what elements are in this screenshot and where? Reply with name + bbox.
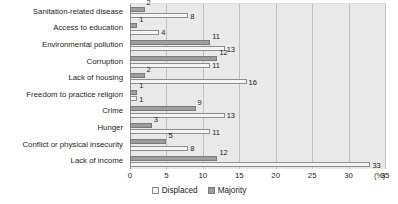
bar-displaced: [130, 146, 188, 151]
bar-majority: [130, 139, 166, 144]
category-label: Environmental pollution: [0, 40, 123, 49]
plot-area: 28141113121121611913311581233: [130, 3, 386, 169]
horizontal-bar-chart: Sanitation-related diseaseAccess to educ…: [0, 0, 398, 204]
bar-value-label: 1: [139, 16, 143, 24]
legend-label: Displaced: [162, 186, 198, 195]
bar-group: 11: [130, 87, 385, 104]
bar-majority: [130, 156, 217, 161]
bar-value-label: 11: [212, 33, 220, 41]
bar-value-label: 12: [219, 149, 227, 157]
bar-majority: [130, 90, 137, 95]
category-label: Crime: [0, 106, 123, 115]
category-axis-labels: Sanitation-related diseaseAccess to educ…: [0, 3, 127, 169]
bar-value-label: 8: [190, 145, 194, 153]
bar-value-label: 9: [198, 99, 202, 107]
x-tick-label: 30: [344, 171, 353, 180]
bar-group: 1233: [130, 153, 385, 170]
bar-value-label: 1: [139, 82, 143, 90]
bar-value-label: 1: [139, 96, 143, 104]
bar-group: 14: [130, 21, 385, 38]
x-tick-label: 15: [235, 171, 244, 180]
bar-value-label: 3: [154, 116, 158, 124]
bar-value-label: 13: [227, 112, 235, 120]
bar-value-label: 5: [168, 132, 172, 140]
x-tick-label: 25: [308, 171, 317, 180]
bar-displaced: [130, 113, 225, 118]
category-label: Lack of income: [0, 156, 123, 165]
bar-majority: [130, 106, 196, 111]
bar-displaced: [130, 46, 225, 51]
legend-swatch-icon: [208, 187, 215, 194]
legend-item-displaced[interactable]: Displaced: [152, 186, 198, 195]
bar-group: 58: [130, 137, 385, 154]
bar-value-label: 13: [227, 46, 235, 54]
category-label: Sanitation-related disease: [0, 7, 123, 16]
bar-displaced: [130, 30, 159, 35]
x-tick-label: 5: [164, 171, 168, 180]
bar-majority: [130, 40, 210, 45]
bar-value-label: 2: [147, 0, 151, 7]
gridline: [385, 4, 386, 169]
x-tick-label: 20: [271, 171, 280, 180]
category-label: Corruption: [0, 57, 123, 66]
legend-swatch-icon: [152, 187, 159, 194]
category-label: Access to education: [0, 23, 123, 32]
bar-displaced: [130, 63, 210, 68]
bar-majority: [130, 56, 217, 61]
x-axis: (%) 05101520253035: [130, 169, 386, 183]
bar-group: 1211: [130, 54, 385, 71]
x-tick-label: 35: [381, 171, 390, 180]
category-label: Hunger: [0, 123, 123, 132]
bar-displaced: [130, 96, 137, 101]
category-label: Lack of housing: [0, 73, 123, 82]
bar-majority: [130, 7, 145, 12]
category-label: Freedom to practice religion: [0, 90, 123, 99]
bar-value-label: 16: [249, 79, 257, 87]
legend-item-majority[interactable]: Majority: [208, 186, 247, 195]
bar-displaced: [130, 79, 247, 84]
bar-majority: [130, 23, 137, 28]
bar-value-label: 4: [161, 29, 165, 37]
legend-label: Majority: [218, 186, 247, 195]
bar-group: 28: [130, 4, 385, 21]
bar-value-label: 11: [212, 129, 220, 137]
x-tick-label: 10: [199, 171, 208, 180]
bar-value-label: 8: [190, 13, 194, 21]
bar-value-label: 12: [219, 49, 227, 57]
chart-legend: DisplacedMajority: [0, 186, 398, 195]
x-tick-label: 0: [128, 171, 132, 180]
bar-value-label: 11: [212, 62, 220, 70]
category-label: Conflict or physical insecurity: [0, 140, 123, 149]
bar-majority: [130, 123, 152, 128]
bar-group: 913: [130, 104, 385, 121]
bar-group: 216: [130, 70, 385, 87]
bar-displaced: [130, 162, 370, 167]
bar-value-label: 2: [147, 66, 151, 74]
bar-majority: [130, 73, 145, 78]
bar-group: 1113: [130, 37, 385, 54]
